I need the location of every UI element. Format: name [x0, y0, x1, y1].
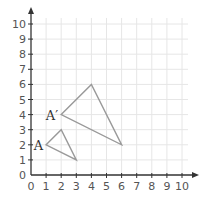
x-tick-label: 7 [133, 180, 140, 193]
y-tick-label: 1 [19, 154, 26, 167]
x-tick-label: 9 [163, 180, 170, 193]
x-tick-label: 0 [28, 180, 35, 193]
y-tick-label: 8 [19, 48, 26, 61]
y-tick-label: 7 [19, 63, 26, 76]
vertex-label: A [33, 138, 44, 153]
x-tick-label: 4 [88, 180, 95, 193]
x-tick-label: 10 [175, 180, 189, 193]
y-tick-label: 0 [19, 169, 26, 182]
x-tick-label: 2 [58, 180, 65, 193]
y-tick-label: 3 [19, 124, 26, 137]
x-tick-label: 8 [148, 180, 155, 193]
x-tick-label: 5 [103, 180, 110, 193]
x-tick-label: 6 [118, 180, 125, 193]
y-tick-label: 2 [19, 139, 26, 152]
y-tick-label: 5 [19, 94, 26, 107]
y-tick-label: 9 [19, 33, 26, 46]
y-tick-label: 4 [19, 109, 26, 122]
y-tick-label: 6 [19, 78, 26, 91]
y-axis-arrow-icon [28, 7, 34, 14]
x-tick-label: 3 [73, 180, 80, 193]
vertex-label: A′ [45, 108, 58, 123]
coordinate-plane: 012345678910012345678910AA′ [0, 0, 205, 208]
y-tick-label: 10 [12, 18, 26, 31]
grid [31, 18, 188, 175]
x-tick-label: 1 [43, 180, 50, 193]
x-axis-arrow-icon [192, 172, 199, 178]
